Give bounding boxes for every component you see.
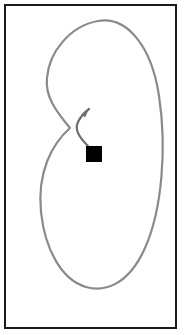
figure-container [0,0,184,335]
plot-frame [5,5,176,328]
figure-svg [0,0,184,335]
square-marker [86,146,102,162]
figure-canvas [0,0,184,335]
